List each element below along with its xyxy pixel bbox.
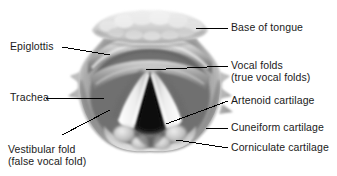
label-trachea: Trachea xyxy=(10,92,49,104)
leader-corniculate xyxy=(176,140,228,148)
label-base-of-tongue: Base of tongue xyxy=(231,22,303,34)
label-epiglottis: Epiglottis xyxy=(10,41,54,53)
label-vestibular-fold-line2: (false vocal fold) xyxy=(8,156,86,168)
label-corniculate-cartilage: Corniculate cartilage xyxy=(231,142,329,154)
label-vestibular-fold-line1: Vestibular fold xyxy=(8,144,75,156)
leader-vocal-folds xyxy=(146,66,228,70)
label-vocal-folds-line2: (true vocal folds) xyxy=(231,72,310,84)
label-artenoid-cartilage: Artenoid cartilage xyxy=(231,95,315,107)
leader-artenoid xyxy=(166,101,228,124)
label-cuneiform-cartilage: Cuneiform cartilage xyxy=(231,122,324,134)
larynx-figure: Base of tongue Vocal folds (true vocal f… xyxy=(0,0,337,176)
label-vocal-folds-line1: Vocal folds xyxy=(231,60,283,72)
leader-vestibular-fold xyxy=(62,110,110,135)
leader-epiglottis xyxy=(62,47,110,55)
